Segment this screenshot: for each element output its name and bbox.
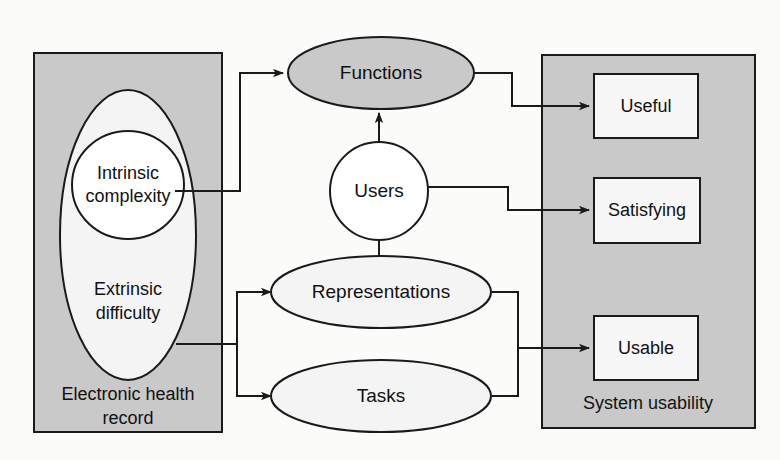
- label-intrinsic-complexity-line1: Intrinsic: [97, 163, 159, 183]
- node-label-tasks: Tasks: [357, 385, 406, 406]
- outcome-label-satisfying: Satisfying: [608, 200, 686, 220]
- connector-extrinsic-to-representations: [237, 292, 271, 344]
- node-label-representations: Representations: [312, 281, 450, 302]
- connector-extrinsic-to-tasks: [237, 344, 271, 396]
- outcome-label-usable: Usable: [618, 338, 674, 358]
- left-panel-caption-line2: record: [102, 408, 153, 428]
- outcome-label-useful: Useful: [620, 96, 671, 116]
- connector-tasks-to-merge: [492, 348, 518, 396]
- right-panel-caption: System usability: [583, 393, 713, 413]
- label-extrinsic-difficulty-line2: difficulty: [96, 303, 161, 323]
- node-label-users: Users: [354, 180, 404, 201]
- left-panel-caption-line1: Electronic health: [61, 384, 194, 404]
- diagram-canvas: Intrinsic complexity Extrinsic difficult…: [0, 0, 780, 460]
- node-label-functions: Functions: [340, 62, 422, 83]
- label-extrinsic-difficulty-line1: Extrinsic: [94, 279, 162, 299]
- label-intrinsic-complexity-line2: complexity: [85, 186, 170, 206]
- diagram-root: Intrinsic complexity Extrinsic difficult…: [0, 0, 780, 460]
- connector-representations-to-merge: [492, 292, 518, 348]
